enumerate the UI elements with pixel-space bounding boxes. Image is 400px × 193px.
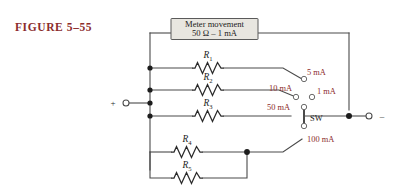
junction-dot-negative-rail (346, 113, 352, 119)
r2-label: R2 (202, 72, 212, 84)
junction-dot-r1 (147, 65, 152, 70)
switch-contact-10ma[interactable] (293, 94, 298, 99)
junction-dot-r2 (147, 87, 152, 92)
r1-label: R1 (202, 50, 212, 62)
switch-contact-1ma[interactable] (309, 94, 314, 99)
positive-polarity-label: + (110, 98, 115, 108)
switch-contact-100ma[interactable] (301, 123, 306, 128)
range-label-5ma: 5 mA (307, 68, 326, 77)
negative-polarity-label: – (379, 111, 385, 121)
r5-label: R5 (181, 160, 192, 172)
switch-contact-50ma[interactable] (301, 104, 306, 109)
r3-label: R3 (202, 98, 213, 110)
r3-resistor-symbol (192, 111, 224, 122)
meter-movement-rating: 50 Ω – 1 mA (192, 28, 238, 38)
r4-label: R4 (181, 134, 192, 146)
switch-contact-5ma[interactable] (301, 76, 306, 81)
junction-dot-r3 (147, 113, 152, 118)
range-label-50ma: 50 mA (267, 103, 290, 112)
r4-resistor-symbol (171, 147, 203, 158)
r5-right-wire (203, 152, 247, 178)
figure-container: FIGURE 5–55 Meter movement 50 Ω – 1 mA R… (0, 0, 400, 193)
r1-to-5ma-wire (224, 68, 302, 79)
junction-dot-r4-r5 (244, 149, 250, 155)
switch-label: SW (310, 114, 323, 123)
r4-r5-to-100ma-wire (247, 139, 302, 152)
range-label-10ma: 10 mA (269, 84, 292, 93)
junction-dot-positive (147, 100, 152, 105)
range-label-1ma: 1 mA (317, 87, 336, 96)
range-label-100ma: 100 mA (307, 135, 334, 144)
circuit-schematic: Meter movement 50 Ω – 1 mA R1 R2 R3 R4 R… (0, 0, 400, 193)
negative-terminal[interactable] (366, 113, 372, 119)
positive-terminal[interactable] (123, 100, 129, 106)
r2-resistor-symbol (192, 85, 224, 96)
r5-left-wire (150, 152, 171, 178)
r5-resistor-symbol (171, 173, 203, 184)
